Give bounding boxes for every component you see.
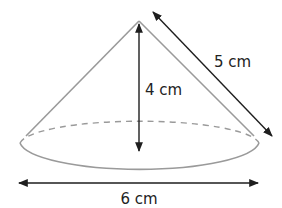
slant-height-label: 5 cm — [214, 53, 251, 71]
cone-left-edge — [26, 21, 139, 136]
height-label: 4 cm — [145, 81, 182, 99]
cone-right-edge — [139, 21, 254, 136]
cone-diagram: 4 cm 5 cm 6 cm — [0, 0, 282, 208]
slant-height-arrow — [153, 12, 272, 136]
diameter-label: 6 cm — [120, 190, 157, 208]
